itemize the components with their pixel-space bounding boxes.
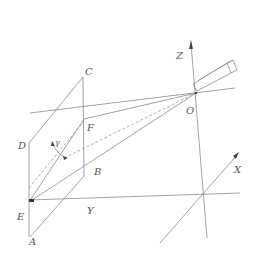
label-e: E	[16, 211, 25, 222]
arc-arrowhead-bottom	[63, 156, 68, 160]
label-o: O	[186, 105, 194, 116]
label-a: A	[28, 236, 36, 247]
point-e-marker	[29, 199, 34, 202]
x-axis-line	[160, 155, 237, 243]
label-y: Y	[87, 205, 95, 216]
label-c: C	[85, 66, 93, 77]
y-axis-line	[29, 193, 240, 200]
label-d: D	[17, 140, 26, 151]
upper-horizontal-line	[30, 88, 235, 113]
label-b: B	[93, 166, 101, 177]
plane-edge-c-vertical	[83, 77, 84, 176]
projection-diagram: C D F γ B E A Y O Z X	[0, 0, 258, 255]
label-x: X	[233, 164, 242, 175]
label-f: F	[86, 122, 95, 133]
plane-edge-ba	[30, 176, 84, 237]
z-axis-arrowhead	[189, 40, 193, 49]
ray-e-o	[29, 93, 196, 202]
line-e-f	[29, 119, 84, 202]
label-gamma: γ	[55, 138, 60, 147]
point-o-marker	[195, 92, 197, 94]
label-z: Z	[175, 50, 184, 61]
z-axis-line	[191, 43, 207, 238]
camera-icon	[193, 60, 237, 91]
ray-f-o	[84, 93, 196, 119]
